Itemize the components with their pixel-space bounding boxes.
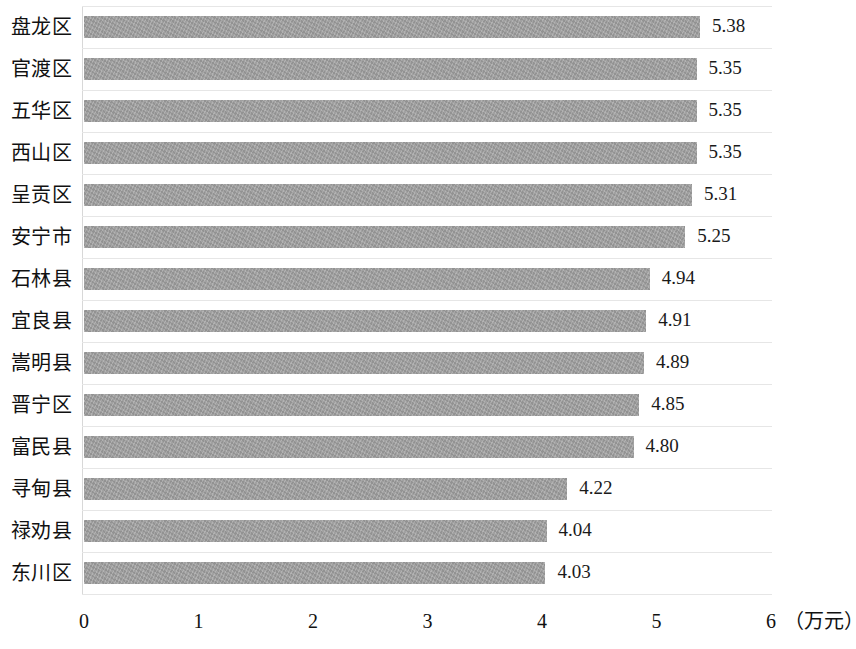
plot-area: 5.385.355.355.355.315.254.944.914.894.85…: [82, 6, 772, 594]
bar-value-label: 4.89: [656, 349, 689, 375]
bar-value-label: 5.35: [709, 55, 742, 81]
bar-value-label: 4.85: [651, 391, 684, 417]
bar-value-label: 5.31: [704, 181, 737, 207]
bar: [84, 184, 692, 206]
category-label: 西山区: [11, 132, 73, 174]
bar-value-label: 5.38: [712, 13, 745, 39]
bar-row: 4.85: [82, 384, 772, 426]
category-label: 富民县: [11, 426, 73, 468]
bar-row: 5.31: [82, 174, 772, 216]
x-axis-unit-label: （万元）: [784, 606, 856, 636]
bar: [84, 562, 545, 584]
x-axis-tick-label: 2: [308, 606, 318, 636]
bar-chart: 盘龙区官渡区五华区西山区呈贡区安宁市石林县宜良县嵩明县晋宁区富民县寻甸县禄劝县东…: [0, 0, 856, 649]
bar-row: 5.38: [82, 6, 772, 48]
bar: [84, 16, 700, 38]
bar: [84, 352, 644, 374]
bar-value-label: 5.25: [697, 223, 730, 249]
bar-row: 4.80: [82, 426, 772, 468]
bar-row: 4.03: [82, 552, 772, 594]
bar-value-label: 5.35: [709, 97, 742, 123]
bar-value-label: 4.80: [646, 433, 679, 459]
bar-row: 4.91: [82, 300, 772, 342]
bar-row: 5.35: [82, 132, 772, 174]
category-label: 石林县: [11, 258, 73, 300]
category-label: 安宁市: [11, 216, 73, 258]
bar-row: 5.35: [82, 48, 772, 90]
bar-rows: 5.385.355.355.355.315.254.944.914.894.85…: [82, 6, 772, 594]
category-label: 寻甸县: [11, 468, 73, 510]
category-label: 东川区: [11, 552, 73, 594]
category-label: 盘龙区: [11, 6, 73, 48]
bar-value-label: 4.91: [658, 307, 691, 333]
category-label: 呈贡区: [11, 174, 73, 216]
bar: [84, 226, 685, 248]
category-label: 宜良县: [11, 300, 73, 342]
x-axis: （万元） 0123456: [0, 594, 856, 649]
category-label: 五华区: [11, 90, 73, 132]
bar: [84, 520, 547, 542]
bar: [84, 142, 697, 164]
category-axis-labels: 盘龙区官渡区五华区西山区呈贡区安宁市石林县宜良县嵩明县晋宁区富民县寻甸县禄劝县东…: [0, 6, 82, 594]
bar-row: 4.94: [82, 258, 772, 300]
category-label: 嵩明县: [11, 342, 73, 384]
x-axis-tick-label: 0: [79, 606, 89, 636]
bar: [84, 478, 567, 500]
bar-row: 4.22: [82, 468, 772, 510]
bar-row: 4.04: [82, 510, 772, 552]
bar-value-label: 4.04: [559, 517, 592, 543]
bar-value-label: 4.94: [662, 265, 695, 291]
x-axis-tick-label: 5: [652, 606, 662, 636]
bar-row: 5.35: [82, 90, 772, 132]
bar-value-label: 4.22: [579, 475, 612, 501]
category-label: 晋宁区: [11, 384, 73, 426]
x-axis-tick-label: 3: [423, 606, 433, 636]
bar: [84, 268, 650, 290]
category-label: 禄劝县: [11, 510, 73, 552]
bar: [84, 100, 697, 122]
bar-value-label: 5.35: [709, 139, 742, 165]
bar: [84, 436, 634, 458]
x-axis-tick-label: 4: [537, 606, 547, 636]
x-axis-tick-label: 1: [194, 606, 204, 636]
x-axis-tick-label: 6: [766, 606, 776, 636]
bar-row: 4.89: [82, 342, 772, 384]
bar: [84, 394, 639, 416]
bar-value-label: 4.03: [557, 559, 590, 585]
bar: [84, 58, 697, 80]
category-label: 官渡区: [11, 48, 73, 90]
bar: [84, 310, 646, 332]
bar-row: 5.25: [82, 216, 772, 258]
